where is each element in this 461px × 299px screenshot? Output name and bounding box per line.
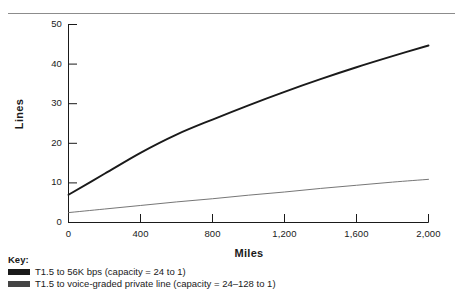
legend-label-t15-voice-graded: T1.5 to voice-graded private line (capac…: [35, 278, 276, 289]
series-line-2: [69, 179, 429, 212]
legend-label-t15-56k: T1.5 to 56K bps (capacity = 24 to 1): [35, 266, 186, 277]
series-lines: [69, 45, 429, 212]
y-tick-label-50: 50: [28, 18, 62, 29]
y-tick-label-40: 40: [28, 58, 62, 69]
x-axis-ticks: [69, 214, 429, 223]
legend-swatch-t15-56k: [8, 269, 30, 275]
figure: 50 40 30 20 10 0 0 400 800 1,200 1,600 2…: [0, 0, 461, 299]
y-tick-label-20: 20: [28, 137, 62, 148]
y-tick-label-0: 0: [28, 216, 62, 227]
y-tick-label-30: 30: [28, 97, 62, 108]
series-line-1: [69, 45, 429, 194]
x-tick-label-1600: 1,600: [335, 228, 379, 239]
x-tick-label-400: 400: [119, 228, 163, 239]
x-tick-label-800: 800: [191, 228, 235, 239]
x-tick-label-0: 0: [47, 228, 91, 239]
x-tick-label-1200: 1,200: [263, 228, 307, 239]
y-tick-label-10: 10: [28, 176, 62, 187]
legend-swatch-t15-voice-graded: [8, 281, 30, 287]
legend-item-t15-voice-graded: T1.5 to voice-graded private line (capac…: [8, 278, 448, 289]
x-tick-label-2000: 2,000: [407, 228, 451, 239]
legend-item-t15-56k: T1.5 to 56K bps (capacity = 24 to 1): [8, 266, 448, 277]
chart-legend: Key: T1.5 to 56K bps (capacity = 24 to 1…: [8, 254, 448, 290]
legend-title: Key:: [8, 254, 448, 265]
y-axis-ticks: [69, 25, 78, 183]
y-axis-title: Lines: [13, 84, 25, 144]
